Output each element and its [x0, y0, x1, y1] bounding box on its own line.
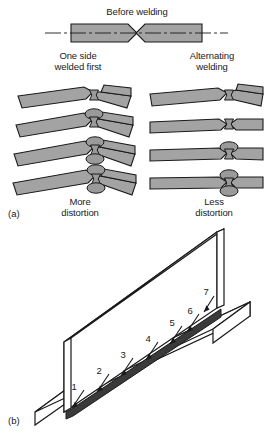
- less-distortion-caption: Less distortion: [162, 196, 266, 218]
- before-welding-label: Before welding: [78, 6, 196, 17]
- pass-number-3: 3: [117, 349, 129, 360]
- panel-a: Before welding One side welded first Alt…: [0, 0, 273, 228]
- pass-number-6: 6: [184, 305, 196, 316]
- pass-number-4: 4: [142, 333, 154, 344]
- right-stage-2: [150, 119, 263, 133]
- pass-number-5: 5: [166, 317, 178, 328]
- panel-a-id: (a): [8, 208, 20, 219]
- alternating-welding-heading: Alternating welding: [160, 50, 264, 72]
- pass-number-2: 2: [93, 365, 105, 376]
- left-stage-4: [13, 165, 136, 195]
- left-stage-2: [16, 109, 133, 137]
- one-side-welded-first-heading: One side welded first: [26, 50, 130, 72]
- more-distortion-caption: More distortion: [28, 196, 132, 218]
- pass-number-1: 1: [68, 381, 80, 392]
- left-stage-3: [14, 137, 135, 166]
- left-stage-1: [18, 85, 131, 108]
- web-plate: [64, 229, 224, 412]
- pass-number-7: 7: [200, 286, 212, 297]
- panel-b-id: (b): [8, 415, 20, 426]
- right-stage-4: [150, 170, 263, 196]
- before-welding-plates: [45, 24, 228, 42]
- panel-b: 1 2 3 4 5 6 7 (b): [0, 222, 273, 441]
- right-stage-3: [150, 142, 263, 161]
- right-stage-1: [150, 84, 263, 106]
